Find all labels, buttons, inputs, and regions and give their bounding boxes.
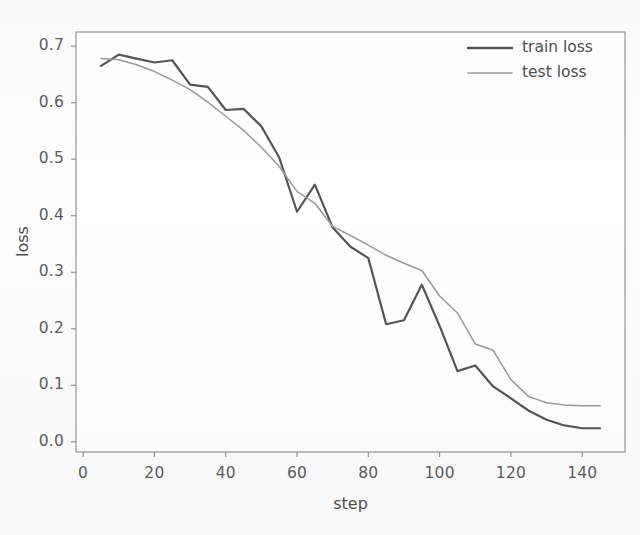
xtick-label-7: 140 (557, 464, 607, 482)
xtick-label-0: 0 (58, 464, 108, 482)
xtick-label-3: 60 (272, 464, 322, 482)
xtick-label-4: 80 (343, 464, 393, 482)
xtick-label-6: 120 (486, 464, 536, 482)
ytick-label-2: 0.5 (24, 149, 64, 167)
ytick-label-5: 0.2 (24, 319, 64, 337)
ytick-label-0: 0.7 (24, 36, 64, 54)
ytick-label-6: 0.1 (24, 375, 64, 393)
xtick-label-2: 40 (201, 464, 251, 482)
legend-label-test-loss: test loss (522, 63, 587, 81)
ytick-label-4: 0.3 (24, 262, 64, 280)
xtick-label-5: 100 (415, 464, 465, 482)
x-axis-title: step (326, 494, 376, 513)
y-axis-title: loss (13, 222, 32, 262)
ytick-label-1: 0.6 (24, 93, 64, 111)
legend-label-train-loss: train loss (522, 38, 593, 56)
figure-canvas: 0.7 0.6 0.5 0.4 0.3 0.2 0.1 0.0 0 20 40 … (0, 0, 640, 535)
xtick-label-1: 20 (129, 464, 179, 482)
ytick-label-7: 0.0 (24, 432, 64, 450)
